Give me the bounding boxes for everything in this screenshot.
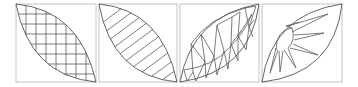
panel-stripes — [90, 2, 190, 87]
quilt-panels-figure — [0, 0, 358, 87]
panel-triangulated — [180, 4, 259, 82]
panel-sunburst — [262, 4, 342, 82]
